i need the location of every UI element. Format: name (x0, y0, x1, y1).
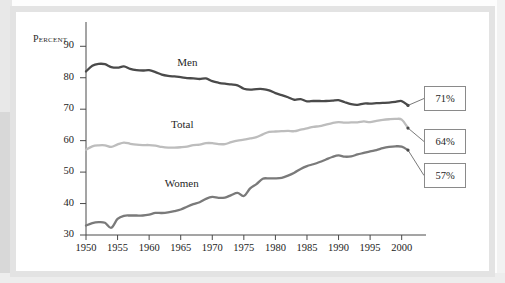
women-callout: 57% (424, 163, 466, 188)
x-tick-label: 2000 (385, 242, 419, 253)
x-tick-label: 1950 (69, 242, 103, 253)
series-line-men (86, 64, 408, 106)
callout-leader-lines (406, 99, 424, 176)
x-tick-label: 1995 (353, 242, 387, 253)
y-tick-label: 80 (52, 71, 74, 82)
series-line-women (86, 146, 408, 228)
y-tick-label: 30 (52, 228, 74, 239)
leader-anchor-dot (406, 104, 409, 107)
series-label-women: Women (165, 177, 199, 189)
y-tick-label: 90 (52, 39, 74, 50)
y-tick-label: 50 (52, 165, 74, 176)
x-tick-label: 1990 (322, 242, 356, 253)
men-callout: 71% (424, 86, 466, 111)
x-tick-marks (86, 235, 402, 240)
total-callout: 64% (424, 129, 466, 154)
x-tick-label: 1955 (101, 242, 135, 253)
y-tick-label: 60 (52, 134, 74, 145)
x-tick-label: 1975 (227, 242, 261, 253)
series-paths (86, 64, 408, 228)
leader-line (408, 128, 424, 141)
series-line-total (86, 119, 408, 150)
series-label-total: Total (171, 118, 193, 130)
x-tick-label: 1980 (258, 242, 292, 253)
x-tick-label: 1970 (195, 242, 229, 253)
x-tick-label: 1965 (164, 242, 198, 253)
leader-anchor-dot (406, 126, 409, 129)
y-tick-marks (80, 46, 86, 235)
leader-line (408, 99, 424, 106)
line-chart-plot (16, 12, 489, 271)
x-tick-label: 1985 (290, 242, 324, 253)
scan-margin-right (497, 0, 505, 283)
y-tick-label: 40 (52, 197, 74, 208)
series-label-men: Men (177, 56, 197, 68)
axis-lines (86, 22, 426, 235)
x-tick-label: 1960 (132, 242, 166, 253)
leader-anchor-dot (406, 148, 409, 151)
y-tick-label: 70 (52, 102, 74, 113)
figure-root: Percent 30405060708090 19501955196019651… (0, 0, 505, 283)
leader-line (408, 150, 424, 175)
